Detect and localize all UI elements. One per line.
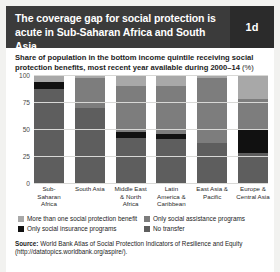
x-tick-label: Sub-Saharan Africa	[31, 185, 67, 207]
bar-segment	[116, 86, 146, 132]
bar-segment	[34, 82, 64, 90]
bar-segment	[75, 78, 105, 107]
bar-segment	[238, 129, 268, 153]
source-text: World Bank Atlas of Social Protection In…	[15, 240, 242, 255]
gridline-25	[34, 156, 268, 157]
x-tick-label: Europe & Central Asia	[235, 185, 271, 207]
chart-area: 0255075100 Sub-Saharan AfricaSouth AsiaM…	[15, 75, 268, 195]
legend-label: No transfer	[153, 225, 185, 233]
y-axis-labels: 0255075100	[15, 75, 32, 183]
bar-segment	[238, 75, 268, 99]
chart-legend: More than one social protection benefitO…	[18, 215, 270, 235]
figure-header: The coverage gap for social protection i…	[6, 6, 274, 48]
x-tick-label: Middle East & North Africa	[113, 185, 149, 207]
y-tick-0: 0	[26, 180, 30, 187]
y-tick-50: 50	[23, 126, 30, 133]
figure-panel: The coverage gap for social protection i…	[0, 0, 280, 272]
legend-swatch-icon	[144, 216, 150, 222]
legend-label: Only social assistance programs	[153, 215, 245, 223]
y-tick-25: 25	[23, 153, 30, 160]
legend-item[interactable]: Only social insurance programs	[18, 225, 144, 233]
legend-swatch-icon	[144, 226, 150, 232]
source-label: Source:	[15, 240, 38, 247]
legend-item[interactable]: No transfer	[144, 225, 270, 233]
x-tick-label: South Asia	[72, 185, 108, 207]
figure-number-badge: 1d	[230, 6, 274, 48]
x-axis-labels: Sub-Saharan AfricaSouth AsiaMiddle East …	[34, 185, 268, 207]
bar-segment	[197, 143, 227, 183]
figure-title: The coverage gap for social protection i…	[15, 11, 220, 53]
gridline-100	[34, 75, 268, 76]
gridline-75	[34, 102, 268, 103]
bar-segment	[156, 139, 186, 183]
legend-label: More than one social protection benefit	[27, 215, 137, 223]
bar-segment	[34, 89, 64, 183]
plot-area	[34, 75, 268, 183]
gridline-50	[34, 129, 268, 130]
figure-card: The coverage gap for social protection i…	[6, 6, 274, 272]
bar-segment	[116, 138, 146, 183]
gridline-0	[34, 183, 268, 184]
subtitle-text: Share of population in the bottom income…	[15, 53, 253, 72]
y-tick-75: 75	[23, 99, 30, 106]
legend-swatch-icon	[18, 226, 24, 232]
legend-item[interactable]: More than one social protection benefit	[18, 215, 144, 223]
bar-segment	[75, 108, 105, 184]
subtitle-unit: (%)	[242, 63, 254, 72]
bar-segment	[156, 75, 186, 86]
source-note: Source: World Bank Atlas of Social Prote…	[15, 240, 266, 256]
legend-label: Only social insurance programs	[27, 225, 117, 233]
y-tick-100: 100	[19, 72, 30, 79]
bar-segment	[116, 75, 146, 86]
bar-segment	[238, 153, 268, 183]
legend-item[interactable]: Only social assistance programs	[144, 215, 270, 223]
x-tick-label: East Asia & Pacific	[194, 185, 230, 207]
bar-segment	[156, 86, 186, 134]
bar-segment	[238, 99, 268, 129]
legend-swatch-icon	[18, 216, 24, 222]
x-tick-label: Latin America & Caribbean	[153, 185, 189, 207]
bar-segment	[197, 78, 227, 143]
